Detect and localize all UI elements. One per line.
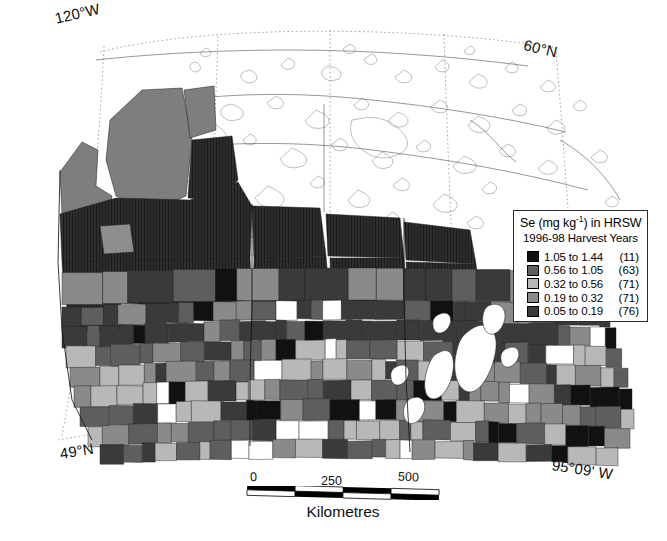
- legend-title-main: Se (mg kg: [520, 216, 576, 230]
- map-unit: [111, 344, 141, 366]
- legend-row: 0.19 to 0.32(71): [527, 291, 641, 305]
- map-unit: [580, 407, 595, 427]
- map-unit: [311, 361, 323, 380]
- map-unit: [117, 386, 143, 405]
- legend-count-label: (71): [619, 278, 641, 290]
- map-unit: [62, 307, 81, 328]
- map-unit: [347, 360, 372, 380]
- map-unit: [303, 399, 330, 421]
- map-unit: [194, 301, 214, 321]
- map-unit: [585, 346, 606, 366]
- map-unit: [166, 361, 196, 383]
- map-unit: [325, 339, 336, 361]
- map-unit: [129, 424, 158, 445]
- map-unit: [571, 385, 591, 405]
- map-unit: [231, 440, 249, 458]
- map-unit: [146, 303, 166, 323]
- map-unit: [606, 349, 622, 368]
- legend-count-label: (71): [619, 292, 641, 304]
- map-unit: [400, 440, 412, 459]
- map-unit: [153, 343, 181, 362]
- map-unit: [166, 303, 178, 323]
- map-unit: [66, 346, 96, 368]
- map-unit: [308, 379, 324, 400]
- legend-range-label: 0.32 to 0.56: [544, 278, 603, 290]
- map-unit: [214, 361, 230, 381]
- map-unit: [70, 367, 100, 387]
- map-unit: [62, 326, 87, 348]
- map-unit: [133, 404, 157, 426]
- map-unit: [173, 270, 215, 302]
- scale-bar: 0 250 500 Kilometres: [243, 470, 443, 536]
- map-unit: [210, 440, 231, 460]
- map-unit: [605, 328, 616, 349]
- legend-range-label: 0.56 to 1.05: [544, 264, 603, 276]
- map-unit: [605, 428, 631, 448]
- map-unit: [276, 421, 299, 441]
- map-unit: [311, 299, 322, 319]
- legend-swatch: [527, 265, 539, 276]
- map-unit: [157, 382, 169, 404]
- map-unit: [254, 360, 282, 381]
- map-unit: [357, 421, 380, 440]
- map-unit: [124, 445, 143, 462]
- map-unit: [370, 340, 397, 360]
- map-unit: [158, 423, 172, 443]
- map-unit: [276, 320, 287, 342]
- map-unit: [176, 401, 191, 421]
- map-unit: [266, 322, 276, 341]
- map-unit: [244, 341, 262, 363]
- map-unit: [614, 368, 628, 387]
- map-unit: [323, 439, 348, 459]
- map-unit: [296, 340, 326, 360]
- legend-swatch: [527, 292, 539, 303]
- legend-count-label: (76): [619, 305, 641, 317]
- map-unit: [196, 361, 214, 381]
- map-unit: [133, 325, 145, 344]
- legend-class-list: 1.05 to 1.44(11)0.56 to 1.05(63)0.32 to …: [520, 250, 641, 318]
- legend-row: 0.32 to 0.56(71): [527, 277, 641, 291]
- map-unit: [128, 271, 173, 303]
- map-unit: [426, 269, 452, 301]
- map-unit: [273, 439, 296, 458]
- map-unit: [208, 381, 224, 402]
- map-unit: [100, 366, 119, 387]
- map-unit: [118, 305, 146, 326]
- map-unit: [376, 400, 396, 420]
- map-unit: [499, 382, 510, 403]
- map-unit: [236, 301, 252, 320]
- map-unit: [547, 365, 557, 385]
- map-unit: [404, 268, 426, 300]
- scale-tick-0: 0: [250, 470, 258, 484]
- map-unit: [102, 425, 128, 446]
- map-unit: [204, 342, 231, 361]
- map-unit: [435, 441, 463, 458]
- map-unit: [287, 321, 305, 340]
- map-unit: [186, 323, 204, 341]
- map-unit: [155, 443, 176, 461]
- map-unit: [386, 439, 400, 458]
- map-unit: [240, 321, 252, 341]
- map-unit: [252, 206, 326, 260]
- map-unit: [529, 323, 559, 346]
- map-unit: [452, 269, 476, 301]
- map-unit: [509, 404, 527, 424]
- map-unit: [252, 301, 276, 320]
- map-unit: [296, 439, 323, 458]
- map-unit: [348, 441, 373, 459]
- map-unit: [554, 385, 570, 406]
- map-unit: [249, 441, 273, 459]
- map-unit: [119, 365, 145, 385]
- legend-count-label: (63): [619, 264, 641, 276]
- map-unit: [476, 270, 510, 302]
- map-unit: [257, 401, 281, 420]
- legend-row: 1.05 to 1.44(11): [527, 250, 641, 264]
- map-unit: [326, 214, 404, 258]
- map-unit: [376, 268, 403, 300]
- scale-bar-units-label: Kilometres: [243, 503, 443, 521]
- map-unit: [574, 345, 586, 367]
- map-unit: [323, 359, 347, 380]
- map-unit: [347, 340, 370, 359]
- map-unit: [169, 382, 185, 404]
- map-unit: [510, 384, 530, 403]
